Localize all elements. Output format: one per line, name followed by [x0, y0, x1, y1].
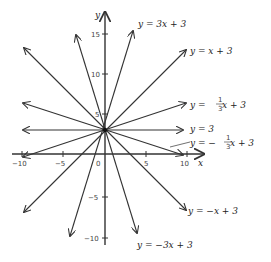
tick-y-m10: −10: [84, 235, 99, 243]
label-const: y = 3: [189, 124, 214, 134]
label-neg-x: y = −x + 3: [187, 206, 238, 216]
chart: −10 −5 0 5 10 x 15 10 5 −5 −10 y y = 3x …: [0, 0, 271, 262]
tick-y-15: 15: [91, 31, 100, 39]
svg-text:y =: y =: [189, 100, 206, 110]
common-point: [103, 128, 107, 132]
x-axis-label: x: [198, 158, 203, 168]
tick-y-10: 10: [91, 71, 100, 79]
tick-x-m10: −10: [12, 160, 27, 168]
y-axis-label: y: [94, 10, 101, 20]
label-neg-3x: y = −3x + 3: [136, 240, 193, 250]
leader-line: [170, 142, 190, 147]
line-neg-third-x: [23, 103, 183, 155]
svg-text:y = −: y = −: [189, 138, 216, 148]
label-neg-third-x: y = − 1 3 x + 3: [189, 134, 254, 151]
label-third-x: y = 1 3 x + 3: [189, 96, 246, 113]
tick-x-5: 5: [144, 160, 148, 168]
tick-x-m5: −5: [55, 160, 65, 168]
svg-text:x + 3: x + 3: [230, 138, 254, 148]
tick-x-10: 10: [180, 160, 189, 168]
label-3x: y = 3x + 3: [137, 19, 186, 29]
svg-text:x + 3: x + 3: [222, 100, 246, 110]
label-x: y = x + 3: [189, 46, 233, 56]
line-neg-3x: [76, 35, 137, 233]
tick-x-0: 0: [96, 160, 100, 168]
tick-y-m5: −5: [88, 194, 98, 202]
line-3x: [70, 31, 133, 236]
tick-y-5: 5: [95, 111, 99, 119]
